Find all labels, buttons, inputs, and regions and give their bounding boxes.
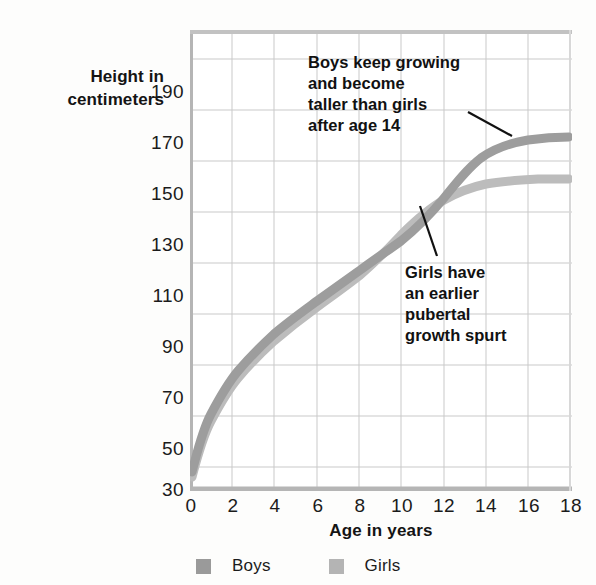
x-tick-16: 16 [514, 495, 544, 517]
x-tick-2: 2 [218, 495, 248, 517]
x-tick-12: 12 [429, 495, 459, 517]
chart-legend: Boys Girls [196, 556, 401, 576]
legend-item-boys: Boys [196, 556, 271, 576]
y-tick-50: 50 [140, 438, 184, 460]
x-tick-14: 14 [471, 495, 501, 517]
y-tick-170: 170 [140, 132, 184, 154]
legend-label-girls: Girls [365, 556, 401, 576]
y-tick-190: 190 [140, 81, 184, 103]
legend-swatch-girls [329, 559, 344, 574]
y-tick-150: 150 [140, 183, 184, 205]
x-tick-10: 10 [387, 495, 417, 517]
legend-label-boys: Boys [232, 556, 271, 576]
growth-chart-figure: Height in centimeters 190 170 150 130 11… [0, 0, 596, 585]
boys-annotation-text: Boys keep growing and become taller than… [308, 52, 480, 136]
legend-item-girls: Girls [329, 556, 401, 576]
y-tick-130: 130 [140, 234, 184, 256]
y-tick-90: 90 [140, 336, 184, 358]
x-tick-8: 8 [345, 495, 375, 517]
x-axis-title: Age in years [190, 521, 572, 541]
y-tick-70: 70 [140, 387, 184, 409]
y-tick-110: 110 [140, 285, 184, 307]
legend-swatch-boys [196, 559, 211, 574]
x-tick-18: 18 [556, 495, 586, 517]
girls-annotation-text: Girls have an earlier pubertal growth sp… [405, 262, 555, 346]
x-tick-6: 6 [303, 495, 333, 517]
x-tick-0: 0 [176, 495, 206, 517]
x-tick-4: 4 [260, 495, 290, 517]
